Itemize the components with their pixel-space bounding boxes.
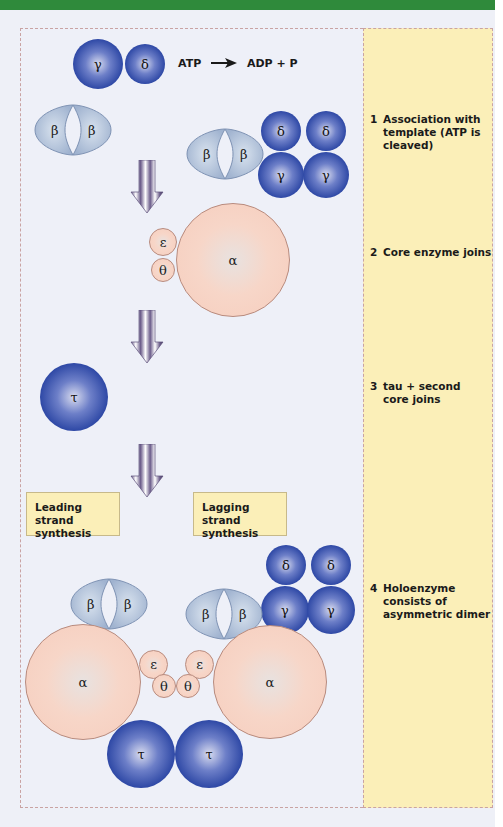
gamma-subunit: γ [73, 39, 123, 89]
delta-subunit: δ [266, 545, 306, 585]
beta-clamp: β β [185, 128, 265, 180]
reaction-arrow-icon [211, 58, 237, 68]
svg-text:β: β [240, 147, 248, 162]
svg-text:β: β [202, 607, 210, 622]
tau-subunit: τ [175, 720, 243, 788]
alpha-subunit: α [25, 624, 141, 740]
delta-subunit: δ [311, 545, 351, 585]
down-arrow-icon [130, 444, 164, 498]
step-text: tau + second core joins [383, 380, 468, 406]
alpha-subunit: α [213, 625, 327, 739]
tau-subunit: τ [40, 363, 108, 431]
svg-text:β: β [239, 607, 247, 622]
lagging-strand-label: Lagging strand synthesis [193, 492, 287, 536]
step-number: 1 [370, 113, 377, 126]
step-text: Association with template (ATP is cleave… [383, 113, 501, 152]
tau-subunit: τ [107, 720, 175, 788]
svg-text:β: β [87, 597, 95, 612]
delta-subunit: δ [306, 111, 346, 151]
step-text: Core enzyme joins [383, 246, 501, 259]
step-number: 2 [370, 246, 377, 259]
svg-text:β: β [203, 147, 211, 162]
beta-clamp: β β [69, 578, 149, 630]
step-number: 4 [370, 582, 377, 595]
theta-subunit: θ [152, 674, 176, 698]
theta-subunit: θ [151, 258, 175, 282]
delta-subunit: δ [125, 44, 165, 84]
delta-subunit: δ [261, 111, 301, 151]
svg-text:β: β [88, 123, 96, 138]
down-arrow-icon [130, 310, 164, 364]
epsilon-subunit: ε [149, 228, 177, 256]
header-bar [0, 0, 495, 10]
alpha-subunit: α [176, 203, 290, 317]
svg-text:β: β [124, 597, 132, 612]
gamma-subunit: γ [307, 586, 355, 634]
step-text: Holoenzyme consists of asymmetric dimer [383, 582, 501, 621]
gamma-subunit: γ [258, 152, 304, 198]
theta-subunit: θ [176, 674, 200, 698]
down-arrow-icon [130, 160, 164, 214]
gamma-subunit: γ [303, 152, 349, 198]
leading-strand-label: Leading strand synthesis [26, 492, 120, 536]
svg-text:β: β [51, 123, 59, 138]
atp-equation: ATP ADP + P [178, 56, 298, 70]
beta-clamp: β β [33, 104, 113, 156]
step-number: 3 [370, 380, 377, 393]
equation-left: ATP [178, 57, 201, 70]
equation-right: ADP + P [247, 57, 298, 70]
